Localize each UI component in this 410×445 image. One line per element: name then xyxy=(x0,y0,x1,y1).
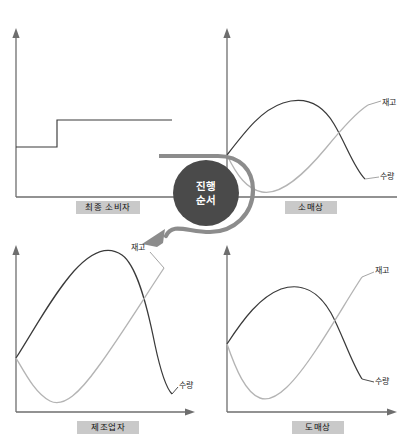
y-axis-arrow-icon xyxy=(12,245,19,255)
curve-manufacturer-inventory xyxy=(16,268,164,403)
curve-label-wholesaler-quantity: 수량 xyxy=(375,377,389,387)
panel-label-manufacturer: 제조업자 xyxy=(77,421,139,434)
panel-wholesaler xyxy=(223,245,397,416)
y-axis-arrow-icon xyxy=(223,245,230,255)
curve-consumer-demand-step xyxy=(16,120,172,147)
curve-wholesaler-quantity xyxy=(227,287,362,379)
process-hub-label-line2: 순서 xyxy=(181,194,231,207)
curve-label-retailer-quantity: 수량 xyxy=(380,172,394,182)
process-hub-label-line1: 진행 xyxy=(181,180,231,193)
curve-wholesaler-inventory xyxy=(227,277,362,399)
curve-leader-lines xyxy=(150,101,381,394)
panel-manufacturer xyxy=(12,245,195,416)
curve-label-retailer-inventory: 재고 xyxy=(382,98,396,108)
axes-manufacturer xyxy=(12,245,195,416)
x-axis-arrow-icon xyxy=(387,408,397,415)
y-axis-arrow-icon xyxy=(12,28,19,38)
axes-final-consumer xyxy=(12,28,182,197)
diagram-canvas: ㅡ ㅡ ㅡ ㅡ ㅡ xyxy=(0,0,410,445)
supply-chain-bullwhip-svg xyxy=(0,0,410,445)
panel-final-consumer xyxy=(12,28,182,197)
curve-label-wholesaler-inventory: 재고 xyxy=(375,266,389,276)
x-axis-arrow-icon xyxy=(185,408,195,415)
panel-label-final-consumer: 최종 소비자 xyxy=(76,201,140,214)
process-hub-circle xyxy=(173,160,239,226)
panel-label-retailer: 소매상 xyxy=(285,201,337,214)
flow-arrowhead-icon xyxy=(142,229,165,247)
curve-label-manufacturer-quantity: 수량 xyxy=(179,381,193,391)
curve-label-manufacturer-inventory: 재고 xyxy=(131,243,145,253)
y-axis-arrow-icon xyxy=(223,28,230,38)
panel-label-wholesaler: 도매상 xyxy=(292,421,344,434)
